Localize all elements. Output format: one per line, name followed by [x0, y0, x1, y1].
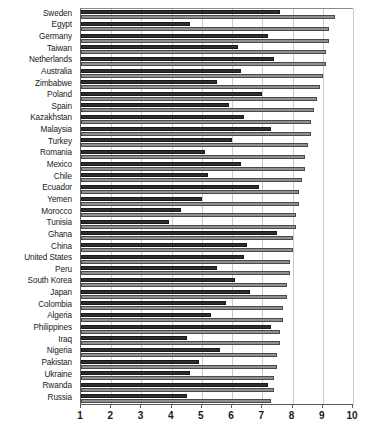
bar-group: [81, 358, 353, 370]
bar-series-light: [81, 202, 299, 206]
bar-series-dark: [81, 45, 238, 49]
category-label: Poland: [0, 89, 76, 101]
horizontal-bar-chart: SwedenEgyptGermanyTaiwanNetherlandsAustr…: [0, 0, 366, 439]
bar-series-dark: [81, 383, 268, 387]
bar-series-dark: [81, 348, 220, 352]
category-label: United States: [0, 252, 76, 264]
bar-series-light: [81, 388, 274, 392]
category-label: Rwanda: [0, 381, 76, 393]
x-axis-line: [80, 404, 352, 405]
bar-group: [81, 230, 353, 242]
category-label: Ghana: [0, 229, 76, 241]
bar-series-dark: [81, 57, 274, 61]
bar-series-dark: [81, 371, 190, 375]
category-label: Malaysia: [0, 124, 76, 136]
bar-group: [81, 242, 353, 254]
bar-series-light: [81, 365, 277, 369]
x-axis-tick: [80, 404, 81, 408]
category-label: Egypt: [0, 20, 76, 32]
bar-group: [81, 149, 353, 161]
category-label: Morocco: [0, 206, 76, 218]
bar-series-light: [81, 318, 283, 322]
bar-group: [81, 102, 353, 114]
bar-series-dark: [81, 197, 202, 201]
bar-group: [81, 44, 353, 56]
bar-series-light: [81, 39, 329, 43]
bar-series-light: [81, 178, 302, 182]
bar-group: [81, 172, 353, 184]
category-label: Zimbabwe: [0, 78, 76, 90]
gridline: [353, 9, 354, 405]
category-label: Japan: [0, 287, 76, 299]
bar-group: [81, 382, 353, 394]
x-axis-tick: [292, 404, 293, 408]
category-label: Tunisia: [0, 218, 76, 230]
x-axis-tick: [110, 404, 111, 408]
category-label: Australia: [0, 66, 76, 78]
x-axis-tick-label: 5: [198, 410, 204, 422]
bar-series-dark: [81, 10, 280, 14]
bar-series-light: [81, 132, 311, 136]
bar-series-light: [81, 236, 293, 240]
category-label: Yemen: [0, 194, 76, 206]
category-label: China: [0, 241, 76, 253]
category-label: Spain: [0, 101, 76, 113]
bar-series-light: [81, 295, 287, 299]
bar-series-light: [81, 15, 335, 19]
bar-series-dark: [81, 34, 268, 38]
bar-series-dark: [81, 69, 241, 73]
bar-group: [81, 32, 353, 44]
category-label: Germany: [0, 31, 76, 43]
bar-group: [81, 312, 353, 324]
bar-group: [81, 207, 353, 219]
x-axis-tick: [261, 404, 262, 408]
bar-group: [81, 114, 353, 126]
category-label: South Korea: [0, 276, 76, 288]
bar-series-light: [81, 306, 283, 310]
x-axis-tick-label: 6: [228, 410, 234, 422]
bar-series-dark: [81, 290, 250, 294]
x-axis-tick-label: 1: [77, 410, 83, 422]
bar-series-light: [81, 50, 326, 54]
bar-series-dark: [81, 394, 187, 398]
bar-series-dark: [81, 173, 208, 177]
bar-group: [81, 160, 353, 172]
bar-series-light: [81, 399, 271, 403]
bar-series-light: [81, 248, 293, 252]
bar-series-dark: [81, 325, 271, 329]
x-axis-tick-label: 4: [168, 410, 174, 422]
bar-series-light: [81, 353, 277, 357]
bar-group: [81, 265, 353, 277]
bar-series-light: [81, 155, 305, 159]
category-label-column: SwedenEgyptGermanyTaiwanNetherlandsAustr…: [0, 8, 76, 404]
category-label: Nigeria: [0, 346, 76, 358]
bar-series-light: [81, 108, 314, 112]
bar-group: [81, 137, 353, 149]
bar-group: [81, 9, 353, 21]
bar-group: [81, 90, 353, 102]
category-label: Philippines: [0, 322, 76, 334]
category-label: Taiwan: [0, 43, 76, 55]
plot-area: [80, 8, 353, 405]
x-axis-tick: [140, 404, 141, 408]
x-axis-tick-label: 10: [346, 410, 357, 422]
bar-group: [81, 21, 353, 33]
bar-series-light: [81, 85, 320, 89]
bar-series-container: [81, 9, 353, 405]
bar-series-dark: [81, 231, 277, 235]
x-axis-tick: [231, 404, 232, 408]
bar-group: [81, 335, 353, 347]
bar-series-light: [81, 167, 305, 171]
bar-series-dark: [81, 22, 190, 26]
bar-series-dark: [81, 208, 181, 212]
x-axis-tick: [201, 404, 202, 408]
bar-series-dark: [81, 162, 241, 166]
bar-group: [81, 184, 353, 196]
bar-series-light: [81, 213, 296, 217]
bar-series-dark: [81, 115, 244, 119]
bar-group: [81, 347, 353, 359]
bar-group: [81, 195, 353, 207]
bar-series-light: [81, 260, 290, 264]
bar-series-dark: [81, 301, 226, 305]
category-label: Ecuador: [0, 183, 76, 195]
